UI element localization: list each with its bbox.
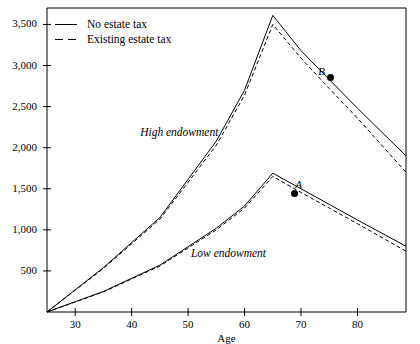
point-label: B [318,65,325,77]
curve-annotation-label: High endowment [140,126,218,138]
y-axis-tick-label: 2,000 [0,141,37,153]
series-line [47,176,406,312]
x-axis-tick-label: 30 [55,318,95,330]
y-axis-tick-label: 2,500 [0,100,37,112]
curve-annotation-label: Low endowment [191,247,266,259]
series-line [47,173,406,312]
point-label: A [295,178,302,190]
x-axis-title: Age [187,332,267,344]
x-axis-tick-label: 80 [337,318,377,330]
y-axis-tick-label: 1,500 [0,182,37,194]
chart-series-lines [47,15,406,312]
x-axis-tick-label: 40 [112,318,152,330]
x-axis-tick-label: 70 [281,318,321,330]
chart-legend: No estate tax Existing estate tax [54,16,171,46]
data-point-marker [327,74,334,81]
solid-line-key-icon [54,18,80,30]
series-line [47,24,406,312]
x-axis-tick-label: 60 [225,318,265,330]
plot-frame [47,8,406,312]
y-axis-tick-label: 1,000 [0,223,37,235]
y-axis-tick-label: 3,000 [0,59,37,71]
legend-item-existing-estate-tax: Existing estate tax [54,31,171,46]
legend-item-no-estate-tax: No estate tax [54,16,171,31]
x-axis-tick-label: 50 [168,318,208,330]
y-axis-tick-label: 500 [0,264,37,276]
dashed-line-key-icon [54,33,80,45]
y-axis-tick-label: 3,500 [0,17,37,29]
legend-label: No estate tax [87,18,147,30]
series-line [47,15,406,312]
legend-label: Existing estate tax [87,33,171,45]
